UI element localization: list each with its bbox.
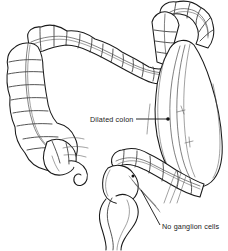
leader-dot-dilated-colon	[166, 117, 170, 121]
transverse-colon-outline	[28, 25, 171, 83]
label-no-ganglion-cells-group: No ganglion cells	[141, 190, 220, 231]
transverse-colon-group	[28, 25, 171, 84]
aganglionic-segment-group	[100, 194, 138, 250]
narrow-segment-fold	[107, 198, 113, 250]
label-dilated-colon-text: Dilated colon	[90, 115, 134, 124]
ganglion-marker-dot	[132, 175, 135, 178]
anatomical-figure: Dilated colon No ganglion cells	[0, 0, 228, 251]
leader-line-no-ganglion-cells	[141, 190, 160, 225]
nerve-strand	[135, 184, 160, 212]
aganglionic-segment-outline	[100, 199, 107, 250]
cecum-appendix-group	[43, 138, 88, 186]
label-no-ganglion-cells-text: No ganglion cells	[162, 222, 220, 231]
colon-illustration: Dilated colon No ganglion cells	[0, 0, 228, 251]
